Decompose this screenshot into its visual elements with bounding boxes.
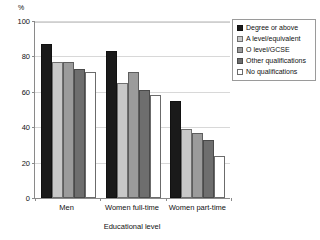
y-axis-tick-label: 100: [17, 18, 30, 26]
bar-group: [165, 22, 230, 198]
black-square-swatch: [237, 25, 243, 31]
x-axis-labels: MenWomen full-timeWomen part-time: [34, 203, 230, 212]
bar-group: [101, 22, 166, 198]
bar[interactable]: [170, 101, 181, 198]
bar[interactable]: [74, 69, 85, 198]
y-axis-tick-label: 60: [22, 89, 30, 97]
x-axis-tick: [166, 198, 167, 201]
legend-item-label: No qualifications: [246, 68, 297, 76]
bar-group-bars: [170, 22, 225, 198]
legend-item[interactable]: O level/GCSE: [237, 46, 312, 54]
legend-item[interactable]: Other qualifications: [237, 57, 312, 65]
y-axis-unit-label: %: [18, 4, 24, 12]
x-axis-tick-label: Men: [34, 203, 99, 212]
x-axis-tick: [100, 198, 101, 201]
y-axis-tick: [32, 21, 35, 22]
medium-gray-square-swatch: [237, 47, 243, 53]
bar[interactable]: [85, 72, 96, 198]
bar[interactable]: [203, 140, 214, 198]
bar[interactable]: [139, 90, 150, 198]
bar[interactable]: [63, 62, 74, 198]
chart-container: % 020406080100 MenWomen full-timeWomen p…: [0, 0, 320, 240]
bar[interactable]: [117, 83, 128, 198]
legend-item[interactable]: Degree or above: [237, 24, 312, 32]
light-gray-square-swatch: [237, 36, 243, 42]
y-axis-tick: [32, 127, 35, 128]
bar[interactable]: [214, 156, 225, 198]
legend-item-label: O level/GCSE: [246, 46, 290, 54]
bar[interactable]: [181, 129, 192, 198]
white-square-swatch: [237, 69, 243, 75]
bar-group-bars: [41, 22, 96, 198]
x-axis-tick: [231, 198, 232, 201]
dark-gray-square-swatch: [237, 58, 243, 64]
bar-groups: [36, 22, 230, 198]
x-axis-title: Educational level: [34, 222, 230, 231]
bar[interactable]: [192, 133, 203, 198]
legend-item[interactable]: No qualifications: [237, 68, 312, 76]
y-axis-tick-label: 20: [22, 160, 30, 168]
plot-area: 020406080100: [34, 22, 230, 199]
legend-item-label: A level/equivalent: [246, 35, 300, 43]
y-axis-tick-label: 80: [22, 54, 30, 62]
bar[interactable]: [150, 95, 161, 198]
bar[interactable]: [52, 62, 63, 198]
legend-item[interactable]: A level/equivalent: [237, 35, 312, 43]
legend-item-label: Degree or above: [246, 24, 298, 32]
y-axis-tick-label: 40: [22, 124, 30, 132]
bar[interactable]: [128, 72, 139, 198]
legend-item-label: Other qualifications: [246, 57, 306, 65]
bar-group-bars: [106, 22, 161, 198]
x-axis-tick: [35, 198, 36, 201]
bar-group: [36, 22, 101, 198]
y-axis-tick: [32, 56, 35, 57]
bar[interactable]: [106, 51, 117, 198]
chart-legend: Degree or aboveA level/equivalentO level…: [232, 19, 316, 81]
bar[interactable]: [41, 44, 52, 198]
y-axis-tick-label: 0: [26, 195, 30, 203]
y-axis-tick: [32, 92, 35, 93]
y-axis-tick: [32, 163, 35, 164]
x-axis-tick-label: Women full-time: [99, 203, 164, 212]
x-axis-tick-label: Women part-time: [165, 203, 230, 212]
